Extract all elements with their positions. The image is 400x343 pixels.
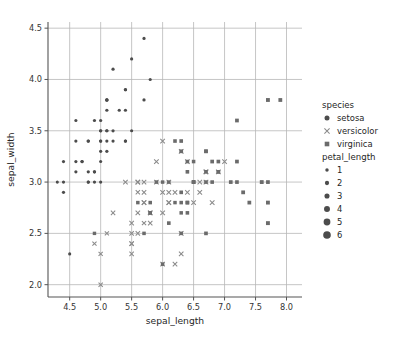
point-virginica xyxy=(210,160,214,164)
point-setosa xyxy=(99,180,102,183)
point-setosa xyxy=(74,139,77,142)
point-setosa xyxy=(68,252,71,255)
point-setosa xyxy=(111,68,114,71)
point-versicolor xyxy=(142,190,146,194)
point-virginica xyxy=(266,98,270,102)
point-setosa xyxy=(105,109,108,112)
point-versicolor xyxy=(167,200,172,205)
legend-marker-size-3 xyxy=(324,193,329,198)
point-versicolor xyxy=(179,252,183,256)
point-virginica xyxy=(161,180,164,183)
gridlines xyxy=(48,22,302,297)
point-setosa xyxy=(74,170,77,173)
point-versicolor xyxy=(148,221,152,225)
point-virginica xyxy=(229,180,233,184)
plot-canvas: 4.55.05.56.06.57.07.58.02.02.53.03.54.04… xyxy=(0,0,400,343)
point-setosa xyxy=(56,181,59,184)
point-setosa xyxy=(62,191,65,194)
point-setosa xyxy=(99,139,102,142)
point-setosa xyxy=(87,139,90,142)
point-virginica xyxy=(217,170,221,174)
point-setosa xyxy=(149,78,152,81)
point-virginica xyxy=(167,221,171,225)
legend-title-species: species xyxy=(322,100,355,110)
x-tick-label: 6.5 xyxy=(187,302,200,312)
point-versicolor xyxy=(92,242,96,246)
point-virginica xyxy=(179,201,183,205)
point-virginica xyxy=(192,180,196,184)
point-virginica xyxy=(204,232,208,236)
point-versicolor xyxy=(136,190,140,194)
point-virginica xyxy=(217,160,221,164)
point-setosa xyxy=(130,57,133,60)
point-virginica xyxy=(266,201,270,205)
point-setosa xyxy=(93,180,96,183)
point-setosa xyxy=(105,98,108,101)
point-setosa xyxy=(62,180,65,183)
point-virginica xyxy=(179,232,183,236)
point-virginica xyxy=(204,170,208,174)
y-tick-label: 2.5 xyxy=(29,228,42,238)
point-setosa xyxy=(111,139,114,142)
point-setosa xyxy=(142,98,145,101)
point-virginica xyxy=(148,211,152,215)
legend-marker-size-4 xyxy=(324,206,330,212)
point-setosa xyxy=(105,150,108,153)
point-virginica xyxy=(266,221,270,225)
point-versicolor xyxy=(167,190,172,195)
point-virginica xyxy=(179,149,183,153)
point-setosa xyxy=(118,109,121,112)
legend-marker-size-2 xyxy=(325,181,329,185)
point-virginica xyxy=(186,160,190,164)
y-tick-label: 4.5 xyxy=(29,23,42,33)
axis-ticks: 4.55.05.56.06.57.07.58.02.02.53.03.54.04… xyxy=(29,23,293,312)
legend-marker-virginica xyxy=(325,142,330,147)
legend-marker-size-1 xyxy=(325,168,328,171)
point-setosa xyxy=(99,119,102,122)
point-virginica xyxy=(235,119,239,123)
point-setosa xyxy=(124,139,127,142)
point-setosa xyxy=(74,119,77,122)
point-versicolor xyxy=(154,159,159,164)
point-versicolor xyxy=(210,200,215,205)
point-virginica xyxy=(179,139,183,143)
point-versicolor xyxy=(142,221,146,225)
point-versicolor xyxy=(136,211,140,215)
point-virginica xyxy=(235,160,239,164)
point-virginica xyxy=(186,211,190,215)
point-setosa xyxy=(124,88,127,91)
legend: speciessetosaversicolorvirginicapetal_le… xyxy=(322,100,378,240)
point-versicolor xyxy=(173,190,177,194)
legend-title-petal-length: petal_length xyxy=(322,152,375,162)
point-versicolor xyxy=(185,190,189,194)
point-setosa xyxy=(124,109,127,112)
point-virginica xyxy=(210,180,214,184)
point-virginica xyxy=(173,139,177,143)
y-tick-label: 3.5 xyxy=(29,126,42,136)
point-setosa xyxy=(74,160,77,163)
point-virginica xyxy=(161,262,165,266)
series-versicolor xyxy=(92,139,226,287)
point-virginica xyxy=(179,191,183,195)
x-tick-label: 4.5 xyxy=(63,302,76,312)
legend-marker-size-5 xyxy=(324,219,331,226)
x-tick-label: 7.0 xyxy=(218,302,231,312)
point-setosa xyxy=(87,170,90,173)
point-versicolor xyxy=(198,190,203,195)
point-setosa xyxy=(130,129,133,132)
point-virginica xyxy=(204,149,208,153)
x-tick-label: 8.0 xyxy=(280,302,293,312)
legend-label-size-6: 6 xyxy=(337,230,342,240)
point-setosa xyxy=(62,160,65,163)
point-virginica xyxy=(142,232,146,236)
point-versicolor xyxy=(111,211,115,215)
point-virginica xyxy=(173,201,176,204)
series-setosa xyxy=(56,37,152,256)
scatter-plot-figure: 4.55.05.56.06.57.07.58.02.02.53.03.54.04… xyxy=(0,0,400,343)
x-tick-label: 6.0 xyxy=(156,302,169,312)
point-setosa xyxy=(142,37,145,40)
x-tick-label: 7.5 xyxy=(249,302,262,312)
point-versicolor xyxy=(173,262,178,266)
legend-label-versicolor: versicolor xyxy=(337,126,378,136)
point-virginica xyxy=(278,98,282,102)
